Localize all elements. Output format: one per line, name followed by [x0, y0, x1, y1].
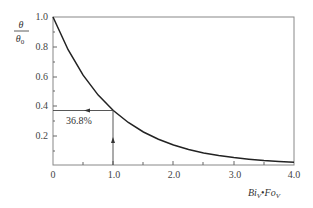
y-tick-0.6: 0.6: [36, 71, 49, 82]
y-tick-0.4: 0.4: [36, 100, 49, 111]
x-ticks: [83, 161, 264, 165]
y-tick-0.8: 0.8: [36, 41, 49, 52]
y-title-numerator: θ: [19, 19, 24, 30]
y-ticks: [53, 32, 57, 151]
plot-frame: [53, 17, 294, 165]
x-tick-1.0: 1.0: [108, 169, 121, 180]
arrow-up-icon: [111, 137, 115, 143]
x-tick-3.0: 3.0: [229, 169, 242, 180]
arrow-left-icon: [84, 109, 90, 113]
y-axis-title: θ θ0: [14, 19, 29, 46]
annotation-36.8: 36.8%: [66, 115, 92, 126]
y-tick-0.2: 0.2: [36, 130, 49, 141]
chart: 1.0 0.8 0.6 0.4 0.2 0 1.0 2.0 3.0 4.0 θ …: [0, 0, 313, 208]
x-axis-title: BiV•FoV: [248, 187, 281, 200]
x-tick-2.0: 2.0: [168, 169, 181, 180]
x-tick-4.0: 4.0: [288, 169, 301, 180]
x-tick-0: 0: [51, 169, 56, 180]
y-tick-1.0: 1.0: [36, 11, 49, 22]
y-title-denominator: θ0: [16, 33, 25, 46]
exp-decay-curve: [53, 17, 294, 162]
